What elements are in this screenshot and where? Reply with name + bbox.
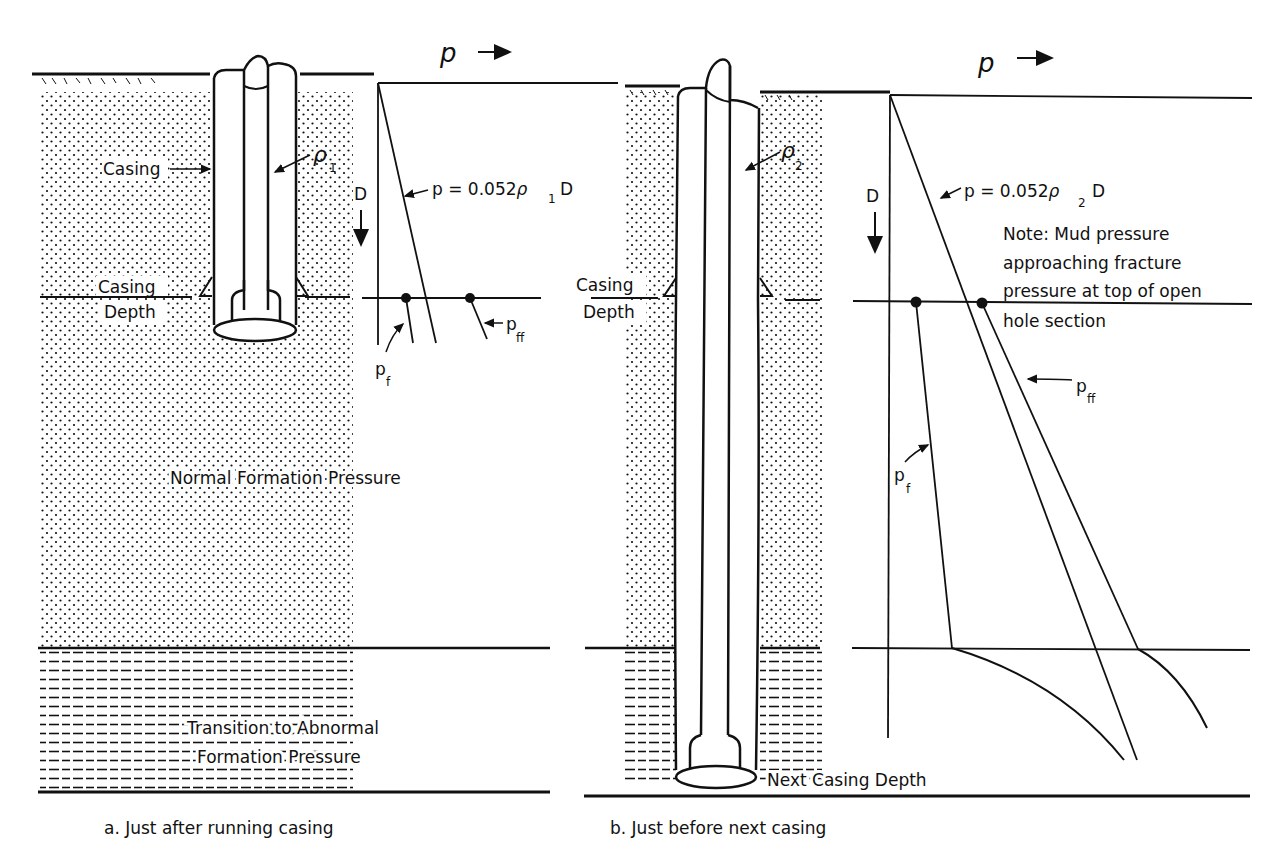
panel-b: ρ 2 Casing Depth Next Casing Depth p D p…	[574, 48, 1252, 838]
note-line-3: pressure at top of open	[1003, 281, 1202, 301]
fracture-pressure-line-b	[982, 303, 1138, 649]
ground-surface-b	[625, 86, 890, 92]
pore-pressure-line-b	[916, 302, 952, 648]
density-rho2: ρ	[781, 138, 795, 163]
caption-b: b. Just before next casing	[610, 818, 826, 838]
pff-label-b: p	[1076, 376, 1087, 396]
next-casing-depth-label: Next Casing Depth	[767, 770, 927, 790]
casing-depth-label-b-2: Depth	[583, 302, 635, 322]
casing-design-diagram: Casing ρ 1 Casing Depth Normal Formation…	[0, 0, 1285, 864]
density-rho1: ρ	[313, 142, 327, 167]
equation-a: p = 0.052ρ	[432, 179, 528, 199]
fracture-pressure-curve-b	[1138, 649, 1207, 728]
pf-sub-b: f	[906, 482, 911, 496]
pff-sub-b: ff	[1087, 392, 1096, 406]
pressure-graph-b: p D p = 0.052ρ 2 D Note: Mud pressure ap…	[852, 48, 1252, 760]
d-axis-label: D	[354, 184, 367, 204]
pf-label-a: p	[375, 359, 386, 379]
pressure-graph-a: p D p = 0.052ρ 1 D p f p ff	[354, 38, 618, 389]
equation-a-sub: 1	[548, 192, 556, 206]
pore-pressure-line-a	[406, 298, 413, 343]
normal-pressure-label: Normal Formation Pressure	[170, 468, 401, 488]
panel-a: Casing ρ 1 Casing Depth Normal Formation…	[32, 38, 618, 838]
p-axis-label-b: p	[977, 48, 995, 78]
pore-pressure-curve-b	[952, 648, 1124, 760]
density-sub-b: 2	[795, 159, 803, 173]
equation-a-suffix: D	[560, 179, 573, 199]
depth-axis-b	[888, 95, 890, 738]
casing-depth-label-1: Casing	[98, 277, 155, 297]
p-axis-label: p	[439, 38, 457, 68]
casing-depth-label-2: Depth	[104, 302, 156, 322]
note-line-1: Note: Mud pressure	[1003, 224, 1169, 244]
casing-depth-label-b-1: Casing	[576, 275, 633, 295]
casing-b	[664, 60, 772, 792]
pff-sub-a: ff	[516, 331, 525, 345]
transition-top-graph-line-b	[852, 648, 1250, 650]
equation-b: p = 0.052ρ	[964, 181, 1060, 201]
fracture-pressure-line-a	[470, 298, 487, 339]
equation-b-suffix: D	[1092, 181, 1105, 201]
normal-formation-zone	[40, 92, 353, 648]
pf-sub-a: f	[386, 375, 391, 389]
d-axis-label-b: D	[866, 186, 879, 206]
note-line-4: hole section	[1003, 311, 1106, 331]
surface-line-graph-b	[890, 95, 1252, 98]
caption-a: a. Just after running casing	[104, 818, 333, 838]
equation-b-sub: 2	[1078, 196, 1086, 210]
casing-a	[200, 56, 308, 341]
density-sub: 1	[329, 161, 337, 175]
pf-label-b: p	[894, 465, 905, 485]
note-line-2: approaching fracture	[1003, 253, 1182, 273]
casing-label: Casing	[103, 159, 160, 179]
transition-label-2: Formation Pressure	[197, 747, 361, 767]
transition-label-1: Transition to Abnormal	[186, 718, 379, 738]
